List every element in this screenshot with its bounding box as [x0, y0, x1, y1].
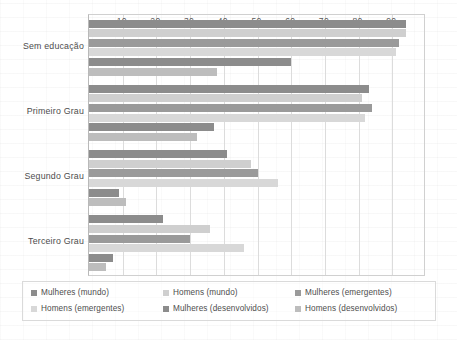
bars-layer [89, 15, 425, 276]
bar [89, 58, 291, 66]
legend-swatch-icon [295, 290, 301, 296]
bar [89, 114, 365, 122]
category-label-4: Terceiro Grau [0, 236, 84, 246]
legend-item-4[interactable]: Homens (emergentes) [31, 305, 124, 313]
legend-swatch-icon [31, 306, 37, 312]
bar [89, 189, 119, 197]
legend-item-5[interactable]: Mulheres (desenvolvidos) [163, 305, 269, 313]
legend-swatch-icon [163, 306, 169, 312]
bar [89, 48, 396, 56]
category-label-2: Primeiro Grau [0, 106, 84, 116]
grouped-bar-chart: 102030405060708090 Sem educaçãoPrimeiro … [0, 0, 457, 340]
bar [89, 160, 251, 168]
legend-swatch-icon [295, 306, 301, 312]
bar [89, 235, 190, 243]
bar [89, 263, 106, 271]
y-axis-category-labels: Sem educaçãoPrimeiro GrauSegundo GrauTer… [0, 14, 84, 276]
legend-label: Homens (mundo) [173, 289, 238, 297]
bar [89, 123, 214, 131]
category-label-1: Sem educação [0, 41, 84, 51]
bar [89, 169, 258, 177]
legend-label: Mulheres (emergentes) [305, 289, 392, 297]
bar [89, 225, 210, 233]
bar [89, 29, 406, 37]
legend-swatch-icon [163, 290, 169, 296]
legend-item-1[interactable]: Mulheres (mundo) [31, 289, 109, 297]
legend-label: Mulheres (desenvolvidos) [173, 305, 269, 313]
bar [89, 39, 399, 47]
legend-item-2[interactable]: Homens (mundo) [163, 289, 238, 297]
bar [89, 179, 278, 187]
bar [89, 68, 217, 76]
bar [89, 20, 406, 28]
legend-label: Homens (desenvolvidos) [305, 305, 397, 313]
bar [89, 104, 372, 112]
legend-item-6[interactable]: Homens (desenvolvidos) [295, 305, 397, 313]
bar [89, 244, 244, 252]
legend-label: Mulheres (mundo) [41, 289, 109, 297]
bar [89, 254, 113, 262]
bar [89, 150, 227, 158]
category-label-3: Segundo Grau [0, 171, 84, 181]
bar [89, 94, 362, 102]
legend-item-3[interactable]: Mulheres (emergentes) [295, 289, 392, 297]
bar [89, 215, 163, 223]
bar [89, 198, 126, 206]
legend-label: Homens (emergentes) [41, 305, 124, 313]
chart-legend: Mulheres (mundo)Homens (mundo)Mulheres (… [22, 281, 436, 321]
legend-swatch-icon [31, 290, 37, 296]
bar [89, 85, 369, 93]
bar [89, 133, 197, 141]
